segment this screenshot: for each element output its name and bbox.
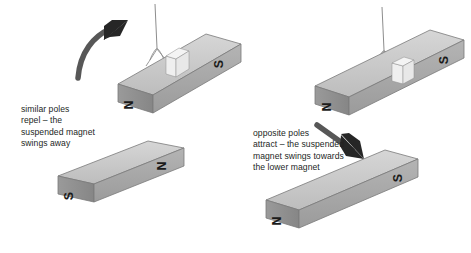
pole-label-N: N	[320, 102, 334, 111]
caption-repulsion: similar poles repel – the suspended magn…	[21, 104, 141, 150]
suspended-magnet-left: N S	[118, 34, 241, 113]
pole-label-N: N	[155, 161, 169, 170]
pole-label-S: S	[391, 174, 405, 182]
pole-label-S: S	[212, 60, 226, 68]
caption-attraction: opposite poles attract – the suspended m…	[253, 128, 403, 174]
pole-label-S: S	[62, 192, 76, 200]
pole-label-S: S	[437, 56, 451, 64]
pole-label-N: N	[270, 216, 284, 225]
thread-left	[146, 4, 168, 66]
figure-canvas: N S S N N S	[0, 0, 471, 253]
lower-magnet-left: S N	[58, 141, 184, 202]
repel-arrow	[78, 20, 128, 78]
suspended-magnet-right: N S	[315, 30, 464, 115]
